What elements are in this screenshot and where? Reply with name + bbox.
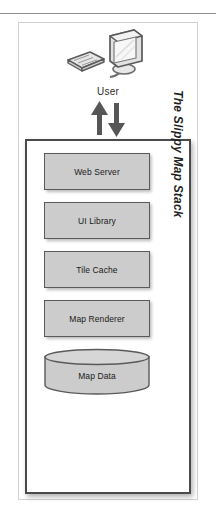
layer-label: Map Data — [44, 349, 150, 395]
user-node: User — [18, 24, 198, 100]
slippy-map-stack-box: The Slippy Map Stack Web Server UI Libra… — [25, 139, 191, 494]
layer-label: Web Server — [44, 153, 150, 190]
stack-layer-map-renderer: Map Renderer — [44, 300, 150, 337]
layer-label: Map Renderer — [44, 300, 150, 337]
stack-layer-web-server: Web Server — [44, 153, 150, 190]
stack-layer-ui-library: UI Library — [44, 202, 150, 239]
layer-label: UI Library — [44, 202, 150, 239]
stack-layer-map-data: Map Data — [44, 349, 150, 395]
stack-title-text: The Slippy Map Stack — [171, 90, 185, 217]
bidirectional-flow-arrows — [86, 101, 130, 137]
page-top-rule — [0, 13, 216, 14]
stack-title: The Slippy Map Stack — [171, 147, 185, 477]
arrow-down-icon — [108, 103, 125, 137]
desktop-computer-icon — [60, 26, 156, 86]
arrow-up-icon — [91, 101, 108, 135]
layer-label: Tile Cache — [44, 251, 150, 288]
stack-layer-list: Web Server UI Library Tile Cache Map Ren… — [44, 153, 150, 407]
stack-layer-tile-cache: Tile Cache — [44, 251, 150, 288]
